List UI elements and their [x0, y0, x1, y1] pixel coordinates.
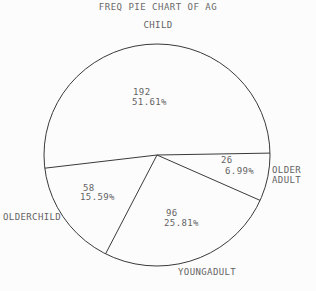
slice-percent-child: 51.61%	[132, 98, 167, 107]
slice-percent-youngadult: 25.81%	[164, 219, 199, 228]
slice-label-child: CHILD	[0, 21, 316, 30]
slice-percent-older-adult: 6.99%	[225, 167, 254, 176]
pie-chart-screen: FREQ PIE CHART OF AG CHILD OLDER ADULT Y…	[0, 0, 316, 291]
slice-label-older-adult: OLDER ADULT	[272, 165, 310, 185]
pie-chart-figure	[0, 0, 316, 291]
slice-label-youngadult: YOUNGADULT	[178, 268, 236, 277]
slice-value-older-adult: 26	[221, 156, 233, 165]
slice-percent-olderchild: 15.59%	[80, 193, 115, 202]
slice-value-youngadult: 96	[166, 209, 178, 218]
slice-value-child: 192	[133, 88, 150, 97]
slice-label-olderchild: OLDERCHILD	[3, 213, 61, 222]
